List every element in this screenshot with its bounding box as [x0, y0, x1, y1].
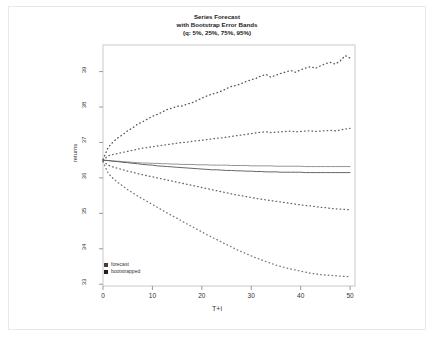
x-tick-label: 40 — [289, 292, 313, 299]
series-q95 — [103, 56, 350, 160]
chart-legend: forecastbootstrapped — [104, 261, 140, 275]
legend-label: bootstrapped — [111, 268, 140, 275]
y-tick-label: 35 — [81, 198, 87, 224]
x-tick-label: 30 — [239, 292, 263, 299]
x-tick-label: 0 — [91, 292, 115, 299]
x-tick-label: 50 — [338, 292, 362, 299]
x-tick-label: 20 — [190, 292, 214, 299]
plot-canvas — [0, 0, 434, 338]
y-tick-label: 33 — [81, 269, 87, 295]
series-q25 — [103, 161, 350, 210]
legend-item: forecast — [104, 261, 140, 268]
legend-label: forecast — [111, 261, 129, 268]
legend-swatch-icon — [104, 270, 108, 274]
y-tick-label: 34 — [81, 234, 87, 260]
series-forecast — [103, 160, 350, 166]
legend-swatch-icon — [104, 263, 108, 267]
series-q75 — [103, 128, 350, 160]
y-tick-label: 36 — [81, 163, 87, 189]
legend-item: bootstrapped — [104, 268, 140, 275]
series-q05 — [103, 162, 350, 277]
x-tick-label: 10 — [140, 292, 164, 299]
y-tick-label: 37 — [81, 127, 87, 153]
y-tick-label: 39 — [81, 57, 87, 83]
forecast-chart: Series Forecast with Bootstrap Error Ban… — [0, 0, 434, 338]
y-tick-label: 38 — [81, 92, 87, 118]
